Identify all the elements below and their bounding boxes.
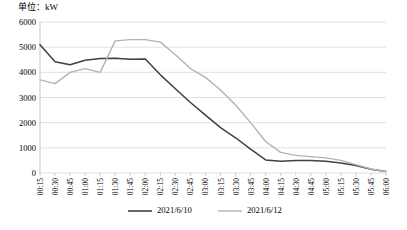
x-axis-tick-label: 01:00 [81,178,90,196]
x-axis-tick-label: 04:45 [307,178,316,196]
y-axis-tick-label: 5000 [19,42,36,52]
x-axis-tick-label: 04:15 [277,178,286,196]
data-series-group [40,40,386,172]
x-axis-tick-label: 05:30 [352,178,361,196]
x-axis-tick-label: 03:45 [247,178,256,196]
x-axis-tick-label: 03:00 [201,178,210,196]
x-axis-tick-label: 02:15 [156,178,165,196]
x-axis-tick-label: 02:45 [186,178,195,196]
line-chart-plot: 0100020003000400050006000 00:1500:3000:4… [0,0,407,230]
x-axis-tick-label: 06:00 [382,178,391,196]
x-axis-tick-label: 05:00 [322,178,331,196]
y-axis-tick-label: 6000 [19,17,36,27]
x-axis-tick-label: 02:30 [171,178,180,196]
y-axis-tick-label: 3000 [19,93,36,103]
x-axis-tick-label: 01:15 [96,178,105,196]
y-axis-tick-label: 4000 [19,67,36,77]
chart-container: 单位：kW 0100020003000400050006000 00:1500:… [0,0,407,230]
x-axis-tick-label: 00:45 [66,178,75,196]
x-axis-tick-labels: 00:1500:3000:4501:0001:1501:3001:4502:00… [36,173,391,195]
x-axis-tick-label: 03:30 [232,178,241,196]
x-axis-tick-label: 05:15 [337,178,346,196]
x-axis-tick-label: 03:15 [217,178,226,196]
x-axis-tick-label: 05:45 [367,178,376,196]
x-axis-tick-label: 00:15 [36,178,45,196]
x-axis-tick-label: 04:30 [292,178,301,196]
legend-label-1: 2021/6/10 [157,205,192,215]
x-axis-tick-label: 00:30 [51,178,60,196]
series-line-2021-6-10 [40,45,386,172]
gridlines [40,22,386,173]
x-axis-tick-label: 01:45 [126,178,135,196]
legend-label-2: 2021/6/12 [247,205,282,215]
y-axis-tick-label: 2000 [19,118,36,128]
x-axis-tick-label: 02:00 [141,178,150,196]
chart-legend: 2021/6/102021/6/12 [128,205,282,215]
x-axis-tick-label: 04:00 [262,178,271,196]
y-axis-tick-label: 0 [32,168,36,178]
x-axis-tick-label: 01:30 [111,178,120,196]
y-axis-tick-labels: 0100020003000400050006000 [19,17,36,178]
y-axis-tick-label: 1000 [19,143,36,153]
